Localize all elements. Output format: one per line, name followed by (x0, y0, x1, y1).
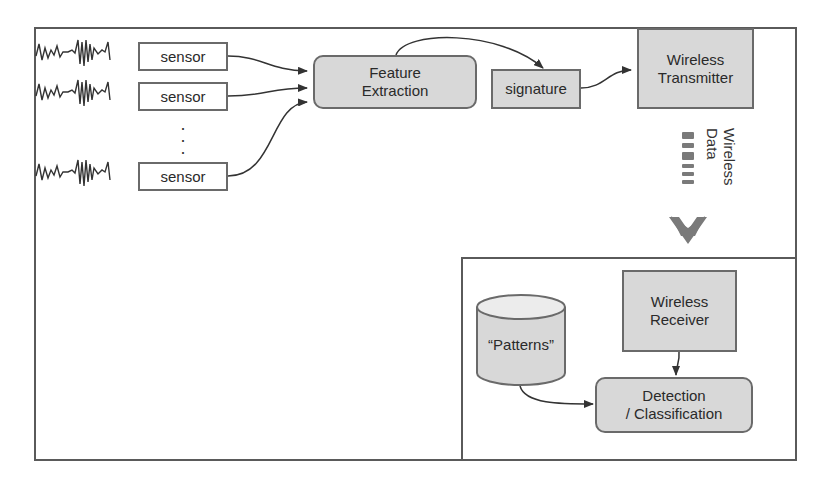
receiver-line2: Receiver (650, 311, 709, 329)
transmitter-line2: Transmitter (658, 69, 733, 87)
wireless-data-line2: Data (704, 128, 721, 186)
detection-line1: Detection (642, 387, 705, 405)
feature-extraction-line2: Extraction (362, 82, 429, 100)
patterns-label: “Patterns” (477, 336, 565, 353)
wireless-data-label: Wireless Data (704, 128, 738, 186)
sensor-label: sensor (160, 48, 205, 66)
sensor-box-2: sensor (138, 82, 228, 111)
sensor-box-1: sensor (138, 42, 228, 71)
signature-label: signature (505, 80, 567, 98)
sensor-label: sensor (160, 88, 205, 106)
ellipsis-dots: ··· (178, 122, 188, 158)
wireless-data-line1: Wireless (721, 128, 738, 186)
detection-classification-box: Detection / Classification (595, 377, 753, 433)
transmitter-line1: Wireless (667, 51, 725, 69)
wireless-transmitter-box: Wireless Transmitter (637, 28, 754, 109)
signal-bars-icon (682, 132, 694, 184)
wireless-receiver-box: Wireless Receiver (622, 270, 737, 352)
sensor-box-3: sensor (138, 162, 228, 191)
sensor-label: sensor (160, 168, 205, 186)
feature-extraction-box: Feature Extraction (313, 55, 477, 109)
feature-extraction-line1: Feature (369, 64, 421, 82)
detection-line2: / Classification (626, 405, 723, 423)
receiver-line1: Wireless (651, 293, 709, 311)
signature-box: signature (491, 69, 581, 109)
waveform-icon (36, 40, 110, 186)
